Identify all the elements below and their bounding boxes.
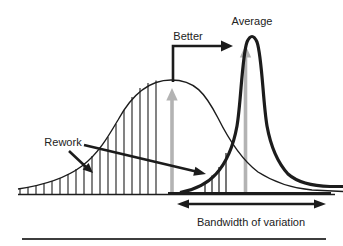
better-arrow — [173, 41, 233, 83]
narrow-distribution-curve — [180, 37, 343, 193]
rework-arrow-long-head-icon — [193, 167, 206, 176]
rework-label: Rework — [44, 136, 82, 148]
bandwidth-arrow-right-head-icon — [314, 200, 326, 209]
bandwidth-arrow-left-head-icon — [177, 200, 189, 209]
mean-arrow-wide-head-icon — [166, 88, 177, 101]
bandwidth-label: Bandwidth of variation — [197, 216, 305, 228]
mean-arrow-wide-curve — [166, 88, 177, 193]
mean-arrow-narrow-shaft — [244, 57, 248, 192]
better-label: Better — [173, 30, 203, 42]
rework-hatch-wide-curve — [20, 81, 156, 195]
rework-arrow-long — [84, 145, 206, 176]
average-label: Average — [232, 15, 273, 27]
better-arrow-head-icon — [221, 41, 233, 52]
diagram-canvas: Average Better Rework Bandwidth of varia… — [0, 0, 343, 246]
mean-arrow-wide-shaft — [170, 100, 174, 193]
distribution-diagram: Average Better Rework Bandwidth of varia… — [0, 0, 343, 246]
bandwidth-arrow — [177, 200, 326, 209]
rework-arrow-short — [69, 151, 93, 173]
